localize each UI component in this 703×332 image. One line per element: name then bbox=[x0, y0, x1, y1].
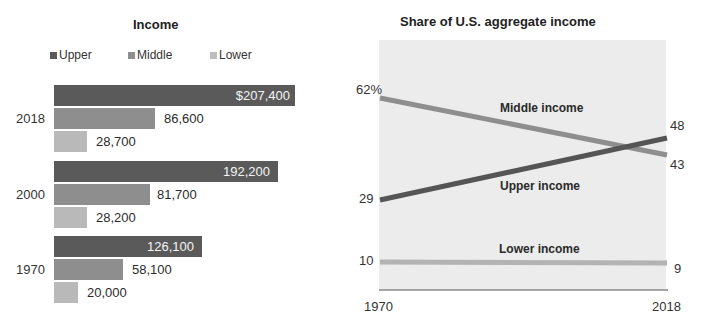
x-tick-start: 1970 bbox=[364, 299, 393, 314]
lower-start-label: 10 bbox=[359, 253, 373, 268]
line-lower-income bbox=[380, 262, 667, 263]
middle-end-label: 43 bbox=[670, 157, 684, 172]
middle-start-label: 62% bbox=[356, 82, 382, 97]
series-label-upper: Upper income bbox=[500, 179, 580, 193]
upper-start-label: 29 bbox=[359, 191, 373, 206]
series-label-middle: Middle income bbox=[500, 101, 583, 115]
lower-end-label: 9 bbox=[674, 261, 681, 276]
upper-end-label: 48 bbox=[670, 118, 684, 133]
line-plot bbox=[0, 0, 703, 332]
x-tick-end: 2018 bbox=[652, 299, 681, 314]
series-label-lower: Lower income bbox=[499, 242, 580, 256]
